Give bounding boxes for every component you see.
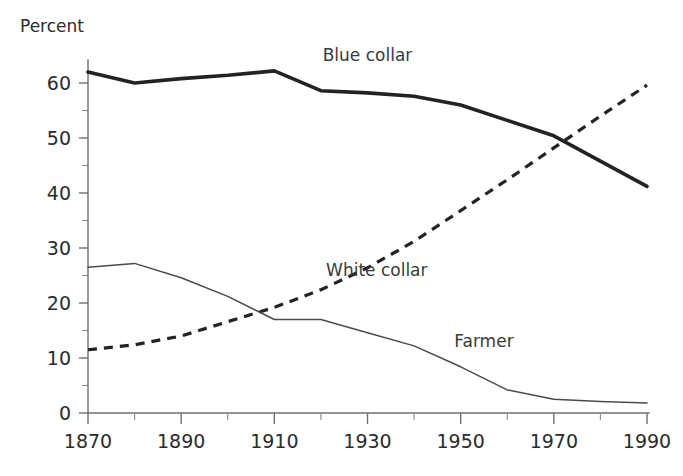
y-tick-label: 40 [47, 182, 71, 204]
x-tick-label: 1950 [436, 430, 484, 452]
x-tick-label: 1890 [157, 430, 205, 452]
series-label-white-collar: White collar [326, 260, 427, 280]
chart-canvas: Percent 0102030405060 187018901910193019… [0, 0, 683, 476]
chart-background [0, 0, 683, 476]
series-label-farmer: Farmer [454, 331, 513, 351]
x-tick-label: 1930 [343, 430, 391, 452]
y-tick-label: 20 [47, 292, 71, 314]
x-tick-label: 1970 [530, 430, 578, 452]
y-tick-label: 0 [59, 402, 71, 424]
x-tick-label: 1870 [64, 430, 112, 452]
y-tick-label: 60 [47, 72, 71, 94]
y-tick-label: 10 [47, 347, 71, 369]
occupational-distribution-chart: Percent 0102030405060 187018901910193019… [0, 0, 683, 476]
y-tick-label: 50 [47, 127, 71, 149]
series-label-blue-collar: Blue collar [323, 45, 413, 65]
x-tick-label: 1990 [623, 430, 671, 452]
y-axis-title: Percent [20, 16, 84, 36]
x-tick-label: 1910 [250, 430, 298, 452]
y-tick-label: 30 [47, 237, 71, 259]
